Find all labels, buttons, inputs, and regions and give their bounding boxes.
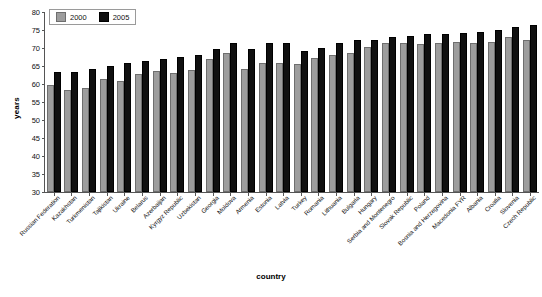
bar-2005[interactable] (283, 43, 290, 192)
y-axis-tick-label: 70 (5, 44, 45, 53)
bar-group[interactable] (274, 12, 292, 192)
bar-2005[interactable] (354, 40, 361, 192)
bar-group[interactable] (345, 12, 363, 192)
bar-2005[interactable] (460, 33, 467, 192)
bar-group[interactable] (239, 12, 257, 192)
bar-2000[interactable] (523, 40, 530, 192)
bar-2005[interactable] (336, 43, 343, 192)
bar-group[interactable] (327, 12, 345, 192)
bar-2000[interactable] (170, 73, 177, 192)
bar-2000[interactable] (100, 79, 107, 192)
bar-2005[interactable] (512, 27, 519, 192)
bar-2005[interactable] (248, 49, 255, 192)
bar-group[interactable] (380, 12, 398, 192)
bar-groups (45, 12, 539, 192)
x-axis-tick-label: Estonia (253, 194, 273, 214)
bar-2005[interactable] (54, 72, 61, 192)
x-axis-tick-labels: Russian FederationKazakhstanTurkmenistan… (44, 194, 538, 266)
plot-area: 8075706560555045403530 (44, 12, 539, 193)
y-axis-tick-label: 40 (5, 152, 45, 161)
bar-2005[interactable] (89, 69, 96, 192)
bar-group[interactable] (257, 12, 275, 192)
bar-group[interactable] (310, 12, 328, 192)
bar-2005[interactable] (424, 34, 431, 192)
bar-2000[interactable] (223, 53, 230, 192)
bar-2000[interactable] (188, 70, 195, 192)
bar-2000[interactable] (259, 63, 266, 192)
bar-2000[interactable] (47, 85, 54, 192)
bar-2000[interactable] (276, 63, 283, 192)
bar-2000[interactable] (117, 81, 124, 192)
x-axis-tick-label: Ukraine (111, 194, 131, 214)
bar-group[interactable] (116, 12, 134, 192)
bar-2000[interactable] (135, 74, 142, 192)
bar-2000[interactable] (311, 58, 318, 192)
bar-2000[interactable] (206, 59, 213, 192)
y-axis-tick-label: 80 (5, 8, 45, 17)
x-axis-tick-label: Armenia (234, 194, 255, 215)
bar-group[interactable] (415, 12, 433, 192)
bar-2000[interactable] (470, 43, 477, 192)
bar-group[interactable] (45, 12, 63, 192)
bar-2005[interactable] (124, 63, 131, 192)
bar-group[interactable] (221, 12, 239, 192)
bar-2000[interactable] (241, 69, 248, 192)
bar-2000[interactable] (400, 43, 407, 192)
bar-2000[interactable] (347, 53, 354, 192)
bar-2005[interactable] (71, 72, 78, 192)
bar-group[interactable] (468, 12, 486, 192)
bar-2005[interactable] (495, 30, 502, 192)
bar-2000[interactable] (329, 55, 336, 192)
bar-group[interactable] (168, 12, 186, 192)
y-axis-tick-label: 50 (5, 116, 45, 125)
bar-2005[interactable] (407, 36, 414, 192)
bar-2005[interactable] (318, 48, 325, 192)
bar-2005[interactable] (477, 32, 484, 192)
bar-group[interactable] (80, 12, 98, 192)
bar-2000[interactable] (382, 43, 389, 192)
bar-group[interactable] (133, 12, 151, 192)
bar-group[interactable] (398, 12, 416, 192)
bar-2005[interactable] (142, 61, 149, 192)
bar-2000[interactable] (294, 64, 301, 192)
bar-2005[interactable] (195, 55, 202, 192)
bar-group[interactable] (486, 12, 504, 192)
bar-2000[interactable] (435, 43, 442, 192)
bar-2005[interactable] (530, 25, 537, 192)
bar-2000[interactable] (82, 88, 89, 192)
bar-2000[interactable] (153, 71, 160, 192)
bar-2005[interactable] (266, 43, 273, 192)
y-axis-tick-mark (42, 192, 45, 193)
bar-2005[interactable] (230, 43, 237, 192)
bar-2005[interactable] (177, 57, 184, 192)
bar-group[interactable] (504, 12, 522, 192)
bar-group[interactable] (186, 12, 204, 192)
x-axis-tick-label: Latvia (273, 194, 290, 211)
y-axis-tick-label: 45 (5, 134, 45, 143)
bar-2000[interactable] (488, 42, 495, 192)
bar-2000[interactable] (364, 47, 371, 192)
bar-2005[interactable] (442, 34, 449, 192)
bar-group[interactable] (98, 12, 116, 192)
bar-2000[interactable] (417, 44, 424, 192)
bar-2005[interactable] (213, 49, 220, 192)
bar-group[interactable] (433, 12, 451, 192)
bar-group[interactable] (63, 12, 81, 192)
bar-group[interactable] (204, 12, 222, 192)
chart-figure: years 20002005 8075706560555045403530 Ru… (0, 0, 542, 297)
bar-2005[interactable] (389, 37, 396, 192)
bar-2005[interactable] (107, 66, 114, 192)
bar-2000[interactable] (505, 37, 512, 192)
bar-group[interactable] (363, 12, 381, 192)
bar-2005[interactable] (301, 51, 308, 192)
bar-group[interactable] (521, 12, 539, 192)
bar-2005[interactable] (371, 40, 378, 192)
bar-group[interactable] (451, 12, 469, 192)
bar-2000[interactable] (453, 42, 460, 192)
y-axis-tick-label: 30 (5, 188, 45, 197)
bar-group[interactable] (151, 12, 169, 192)
bar-2000[interactable] (64, 90, 71, 192)
bar-2005[interactable] (160, 59, 167, 192)
bar-group[interactable] (292, 12, 310, 192)
x-axis-tick-label: Albania (465, 194, 485, 214)
